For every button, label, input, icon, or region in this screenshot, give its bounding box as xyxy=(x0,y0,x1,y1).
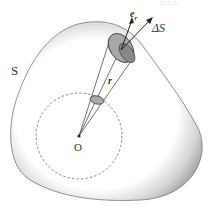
delta-s-label: ΔS xyxy=(152,22,165,34)
origin-point xyxy=(77,134,80,137)
corner-caption: (2.1.2) xyxy=(160,0,179,7)
unit-vector-label: er xyxy=(130,9,137,22)
closed-surface xyxy=(11,22,202,201)
radius-vector-label: r xyxy=(108,76,112,86)
surface-label: S xyxy=(11,64,18,77)
origin-label: O xyxy=(74,142,82,153)
gauss-law-diagram xyxy=(0,0,208,207)
